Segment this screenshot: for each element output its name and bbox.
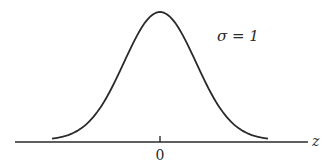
x-axis-label: z [311,133,320,149]
tick-label-zero: 0 [156,147,165,163]
sigma-label: σ = 1 [217,27,259,45]
normal-distribution-chart: σ = 1 z 0 [0,0,335,168]
